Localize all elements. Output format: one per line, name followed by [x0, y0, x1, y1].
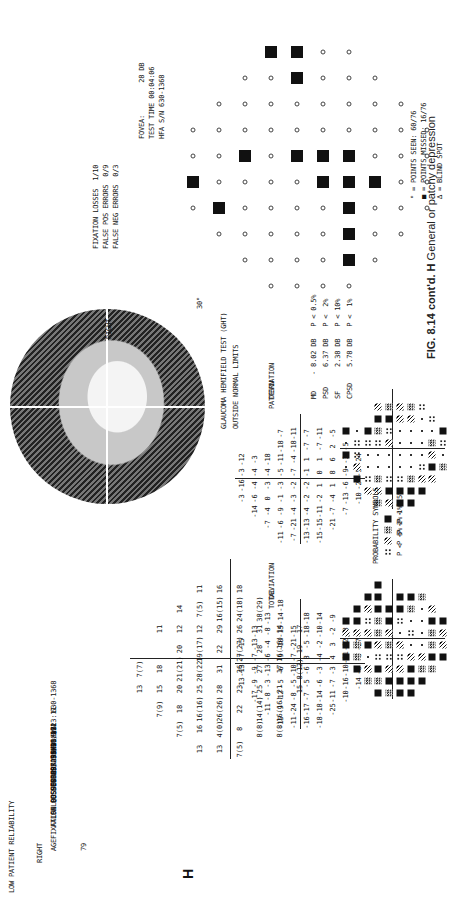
- probability-symbol-diag: [429, 452, 436, 459]
- point-seen: [295, 284, 300, 289]
- total-deviation-value: 3: [329, 642, 337, 646]
- total-deviation-label2: DEVIATION: [268, 563, 276, 599]
- point-seen: [347, 102, 352, 107]
- panel-letter: H: [180, 869, 196, 879]
- threshold-value: 16(15): [216, 596, 224, 621]
- pattern-deviation-value: -7: [290, 533, 298, 541]
- total-deviation-value: -17: [303, 703, 311, 716]
- pattern-deviation-value: -21: [329, 518, 337, 531]
- threshold-value: 28: [216, 685, 224, 693]
- probability-symbol-diag: [397, 416, 404, 423]
- index-cpsd: CPSD 5.78 DB P < 1%: [346, 299, 354, 399]
- probability-symbol-diag: [386, 440, 393, 447]
- probability-symbol-chk: [386, 404, 393, 411]
- total-deviation-value: -15: [277, 625, 285, 638]
- point-seen: [399, 180, 404, 185]
- point-missed: [213, 202, 225, 214]
- index-md: MD - 8.02 DB P < 0.5%: [310, 295, 318, 399]
- probability-symbol-dot: [367, 466, 369, 468]
- threshold-value: 21(21): [176, 656, 184, 681]
- legend-text: P < 0.5%: [396, 491, 404, 523]
- probability-symbol-chk: [353, 642, 360, 649]
- pattern-deviation-value: -6: [251, 494, 259, 502]
- probability-symbol-chk: [353, 654, 360, 661]
- point-seen: [243, 128, 248, 133]
- probability-symbol-blk: [343, 452, 350, 459]
- pattern-deviation-value: 1: [329, 483, 337, 487]
- threshold-value: 22: [216, 645, 224, 653]
- point-seen: [321, 102, 326, 107]
- point-missed: [343, 176, 355, 188]
- total-deviation-value: -5: [303, 640, 311, 648]
- total-deviation-value: -10: [290, 664, 298, 677]
- probability-symbol-dots4: [440, 440, 447, 447]
- total-deviation-value: -25: [329, 703, 337, 716]
- pattern-deviation-value: 8: [329, 470, 337, 474]
- probability-symbol-diag: [397, 642, 404, 649]
- point-seen: [269, 284, 274, 289]
- probability-symbol-dots4: [397, 476, 404, 483]
- point-seen: [321, 76, 326, 81]
- point-seen: [191, 206, 196, 211]
- probability-symbol-dot: [421, 430, 423, 432]
- pattern-deviation-value: -1: [303, 468, 311, 476]
- probability-symbol-blk: [386, 618, 393, 625]
- probability-symbol-diag: [440, 630, 447, 637]
- probability-symbol-blk: [429, 464, 436, 471]
- point-missed: [343, 228, 355, 240]
- probability-symbol-blk: [375, 416, 382, 423]
- threshold-value: 16: [196, 725, 204, 733]
- total-deviation-value: -13: [238, 677, 246, 690]
- pattern-deviation-value: -3: [238, 468, 246, 476]
- pattern-deviation-value: -13: [303, 518, 311, 531]
- probability-symbol-blk: [418, 488, 425, 495]
- total-deviation-value: -14: [277, 612, 285, 625]
- threshold-value: 16(16): [196, 696, 204, 721]
- pattern-deviation-value: -7: [316, 442, 324, 450]
- total-deviation-value: -4: [316, 653, 324, 661]
- threshold-value: 20: [176, 685, 184, 693]
- probability-symbol-diag: [343, 630, 350, 637]
- probability-symbol-blk: [353, 476, 360, 483]
- pd-axis-h: [300, 414, 301, 544]
- grayscale-axis-v: [10, 406, 205, 408]
- serial-right: HFA S/N 630-1368: [158, 75, 166, 139]
- pattern-deviation-value: -4: [303, 507, 311, 515]
- false-pos-right: FALSE POS ERRORS 0/9: [102, 165, 110, 249]
- probability-symbol-dot: [345, 442, 347, 444]
- threshold-axis-h: [230, 559, 231, 759]
- probability-symbol-chk: [375, 630, 382, 637]
- probability-symbol-dot: [356, 430, 358, 432]
- probability-symbol-dot: [377, 466, 379, 468]
- probability-symbol-blk: [386, 678, 393, 685]
- probability-symbol-blk: [407, 500, 414, 507]
- age-label: AGE: [50, 839, 58, 851]
- probability-symbol-dot: [442, 454, 444, 456]
- pattern-deviation-value: -7: [303, 442, 311, 450]
- probability-symbol-blk: [343, 642, 350, 649]
- probability-symbol-dots4: [375, 654, 382, 661]
- point-seen: [295, 180, 300, 185]
- pattern-deviation-value: -3: [251, 455, 259, 463]
- point-seen: [425, 206, 430, 211]
- point-seen: [269, 102, 274, 107]
- probability-symbol-blk: [429, 618, 436, 625]
- pattern-deviation-value: -18: [264, 453, 272, 466]
- threshold-value: 12: [196, 625, 204, 633]
- point-seen: [217, 128, 222, 133]
- pattern-deviation-value: -15: [316, 531, 324, 544]
- total-deviation-value: -18: [316, 716, 324, 729]
- threshold-value: 12: [176, 625, 184, 633]
- pattern-deviation-value: -2: [290, 481, 298, 489]
- point-seen: [269, 258, 274, 263]
- point-seen: [399, 102, 404, 107]
- total-deviation-value: -4: [264, 640, 272, 648]
- pattern-deviation-value: -4: [329, 494, 337, 502]
- pattern-deviation-value: -5: [277, 468, 285, 476]
- probability-symbol-diag: [397, 404, 404, 411]
- point-seen: [269, 76, 274, 81]
- point-missed: [317, 176, 329, 188]
- legend-seen: ° = POINTS SEEN: 60/76: [410, 111, 418, 199]
- reliability-warning: LOW PATIENT RELIABILITY: [8, 801, 16, 893]
- pattern-deviation-value: -4: [264, 468, 272, 476]
